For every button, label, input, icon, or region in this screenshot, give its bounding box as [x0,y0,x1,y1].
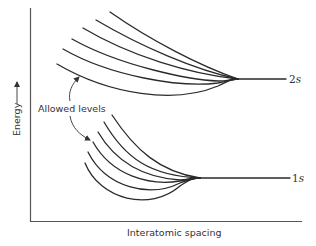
allowed-levels-label: Allowed levels [38,103,106,114]
y-axis-label: Energy [11,102,22,136]
arrow-to-upper-band-icon [69,77,79,101]
upper-band-curves [57,12,286,95]
energy-level-diagram: Energy 2s 1s Allowed levels Interatomic … [0,0,316,246]
level-1s-label: 1s [292,172,305,184]
lower-band-curves [85,115,290,200]
arrow-to-lower-band-icon [70,116,90,140]
level-2s-label: 2s [289,73,302,85]
x-axis-label: Interatomic spacing [127,227,222,238]
y-axis-label-group: Energy [11,102,22,136]
axes [30,8,302,222]
